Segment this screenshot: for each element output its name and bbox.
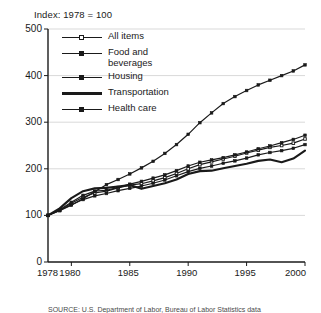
legend-item-label: Food and beverages	[102, 47, 152, 68]
data-point-marker	[269, 151, 272, 154]
data-point-marker	[117, 189, 120, 192]
legend-item-food-and-beverages[interactable]: Food and beverages	[62, 47, 192, 68]
data-point-marker	[304, 138, 307, 141]
legend-item-all-items[interactable]: All items	[62, 31, 192, 44]
x-axis-tick-label: 1980	[59, 268, 80, 278]
legend-key-marker	[79, 107, 84, 112]
data-point-marker	[187, 168, 190, 171]
data-point-marker	[140, 185, 143, 188]
data-point-marker	[234, 95, 237, 98]
legend-item-label: All items	[102, 31, 144, 42]
y-axis-tick-label: 100	[2, 210, 42, 220]
x-axis-tick-label: 2000	[285, 268, 306, 278]
data-point-marker	[269, 79, 272, 82]
y-axis-tick-label: 500	[2, 24, 42, 34]
y-axis-tick-label: 300	[2, 117, 42, 127]
data-point-marker	[152, 160, 155, 163]
data-point-marker	[164, 152, 167, 155]
data-point-marker	[128, 187, 131, 190]
legend-key-open-square-icon	[62, 32, 102, 44]
data-point-marker	[210, 165, 213, 168]
data-point-marker	[292, 70, 295, 73]
y-axis-tick-label: 200	[2, 164, 42, 174]
data-point-marker	[245, 157, 248, 160]
legend-key-marker	[79, 75, 84, 80]
chart-legend: All itemsFood and beveragesHousingTransp…	[62, 31, 192, 119]
data-point-marker	[82, 197, 85, 200]
x-axis-tick-label: 1990	[176, 268, 197, 278]
legend-item-housing[interactable]: Housing	[62, 71, 192, 84]
chart-axis-title: Index: 1978 = 100	[34, 9, 112, 20]
legend-key-filled-square-icon	[62, 48, 102, 60]
legend-key-line	[62, 92, 102, 95]
legend-key-filled-square-icon	[62, 104, 102, 116]
legend-item-label: Housing	[102, 71, 143, 82]
data-point-marker	[152, 177, 155, 180]
x-axis-tick-label: 1985	[118, 268, 139, 278]
data-point-marker	[280, 74, 283, 77]
data-point-marker	[93, 190, 96, 193]
data-point-marker	[105, 189, 108, 192]
data-point-marker	[304, 143, 307, 146]
data-point-marker	[175, 143, 178, 146]
data-point-marker	[117, 178, 120, 181]
data-point-marker	[140, 180, 143, 183]
data-point-marker	[175, 174, 178, 177]
data-point-marker	[164, 179, 167, 182]
data-point-marker	[152, 182, 155, 185]
x-axis-tick-label: 1995	[235, 268, 256, 278]
data-point-marker	[82, 194, 85, 197]
data-point-marker	[292, 138, 295, 141]
data-point-marker	[280, 149, 283, 152]
data-point-marker	[245, 151, 248, 154]
data-point-marker	[222, 102, 225, 105]
data-point-marker	[199, 161, 202, 164]
data-point-marker	[269, 145, 272, 148]
data-point-marker	[187, 165, 190, 168]
legend-key-none-icon	[62, 88, 102, 100]
data-point-marker	[70, 201, 73, 204]
data-point-marker	[164, 174, 167, 177]
data-point-marker	[257, 154, 260, 157]
data-point-marker	[187, 170, 190, 173]
series-line	[48, 151, 305, 216]
legend-item-transportation[interactable]: Transportation	[62, 87, 192, 100]
data-point-marker	[199, 121, 202, 124]
data-point-marker	[234, 160, 237, 163]
legend-key-marker	[79, 51, 84, 56]
data-point-marker	[280, 144, 283, 147]
data-point-marker	[105, 183, 108, 186]
data-point-marker	[128, 173, 131, 176]
y-axis-tick-label: 0	[2, 257, 42, 267]
data-point-marker	[222, 156, 225, 159]
data-point-marker	[304, 64, 307, 67]
legend-key-filled-square-icon	[62, 72, 102, 84]
data-point-marker	[199, 167, 202, 170]
data-point-marker	[304, 134, 307, 137]
data-point-marker	[292, 142, 295, 145]
data-point-marker	[105, 192, 108, 195]
data-point-marker	[210, 159, 213, 162]
x-axis-tick-label: 1978	[37, 268, 58, 278]
data-point-marker	[257, 84, 260, 87]
y-axis-tick-label: 400	[2, 71, 42, 81]
data-point-marker	[245, 89, 248, 92]
legend-item-health-care[interactable]: Health care	[62, 103, 192, 116]
legend-key-marker	[79, 35, 84, 40]
data-point-marker	[234, 154, 237, 157]
data-point-marker	[58, 209, 61, 212]
data-point-marker	[257, 147, 260, 150]
data-point-marker	[175, 169, 178, 172]
data-point-marker	[210, 112, 213, 115]
data-point-marker	[47, 214, 50, 217]
data-point-marker	[222, 162, 225, 165]
data-point-marker	[70, 204, 73, 207]
data-point-marker	[280, 141, 283, 144]
data-point-marker	[292, 147, 295, 150]
data-point-marker	[140, 167, 143, 170]
legend-item-label: Transportation	[102, 87, 169, 98]
source-note: SOURCE: U.S. Department of Labor, Bureau…	[48, 306, 261, 313]
legend-item-label: Health care	[102, 103, 157, 114]
data-point-marker	[93, 195, 96, 198]
chart-container: Index: 1978 = 100 5004003002001000 19781…	[0, 0, 321, 313]
